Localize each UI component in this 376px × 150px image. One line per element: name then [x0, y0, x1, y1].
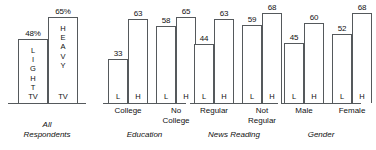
- panel-baseline: [281, 103, 361, 104]
- bar-series-letter: L: [109, 93, 127, 102]
- bar-stacked-letters: H E A V Y: [49, 24, 77, 70]
- panel-baseline: [190, 103, 278, 104]
- bar-series-letter: H: [263, 93, 281, 102]
- chart-panel: L44H63RegularL59H68Not RegularNews Readi…: [190, 0, 280, 150]
- bar-series-letter: L: [195, 93, 213, 102]
- bar-value-label: 68: [348, 3, 376, 12]
- bar-l: L: [156, 26, 176, 103]
- group-label: Female: [322, 106, 376, 116]
- bar-l: L I G H TTV: [18, 39, 48, 103]
- bar-l: L: [284, 43, 304, 103]
- bar-h: H: [304, 23, 324, 103]
- bar-h: H: [352, 13, 372, 103]
- bar-l: L: [108, 59, 128, 103]
- panel-title: All Respondents: [8, 120, 86, 140]
- bar-series-letter: H: [129, 93, 147, 102]
- bar-series-letter: L: [157, 93, 175, 102]
- panel-title: Gender: [281, 130, 361, 140]
- bar-l: L: [332, 34, 352, 103]
- chart-panel: L I G H TTV48%H E A V YTV65%All Responde…: [8, 0, 103, 150]
- bar-series-letter: L: [285, 93, 303, 102]
- bar-h: H E A V YTV: [48, 17, 78, 103]
- bar-stacked-letters: L I G H T: [19, 46, 47, 92]
- bar-l: L: [242, 25, 262, 103]
- bar-value-label: 60: [300, 13, 328, 22]
- bar-series-letter: H: [305, 93, 323, 102]
- chart-panel: L45H60MaleL52H68FemaleGender: [281, 0, 363, 150]
- bar-l: L: [194, 44, 214, 103]
- bar-value-label: 63: [124, 9, 152, 18]
- bar-series-letter: L: [243, 93, 261, 102]
- bar-footer-label: TV: [19, 93, 47, 102]
- bar-series-letter: L: [333, 93, 351, 102]
- panel-baseline: [8, 103, 86, 104]
- panel-title: Education: [103, 130, 186, 140]
- panel-title: News Reading: [190, 130, 278, 140]
- bar-value-label: 63: [210, 9, 238, 18]
- bar-series-letter: H: [215, 93, 233, 102]
- panel-baseline: [103, 103, 186, 104]
- chart-panel: L33H63CollegeL58H65No CollegeEducation: [103, 0, 188, 150]
- bar-footer-label: TV: [49, 93, 77, 102]
- bar-h: H: [214, 19, 234, 103]
- bar-h: H: [128, 19, 148, 103]
- bar-h: H: [262, 13, 282, 103]
- bar-value-label: 48%: [14, 29, 52, 38]
- bar-value-label: 65%: [44, 7, 82, 16]
- bar-series-letter: H: [353, 93, 371, 102]
